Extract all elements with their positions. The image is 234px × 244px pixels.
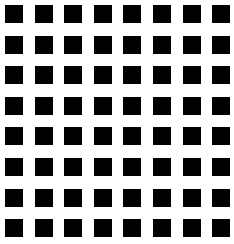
black-square xyxy=(64,97,82,115)
black-square xyxy=(35,219,53,237)
black-square xyxy=(35,5,53,23)
black-square xyxy=(94,36,112,54)
black-square xyxy=(35,97,53,115)
black-square xyxy=(123,97,141,115)
black-square xyxy=(123,36,141,54)
black-square xyxy=(183,158,201,176)
black-square xyxy=(153,127,171,145)
black-square xyxy=(94,219,112,237)
black-square xyxy=(212,36,230,54)
black-square xyxy=(35,189,53,207)
black-square xyxy=(153,66,171,84)
black-square xyxy=(35,127,53,145)
black-square xyxy=(94,189,112,207)
black-square xyxy=(94,158,112,176)
black-square xyxy=(123,158,141,176)
black-square xyxy=(153,97,171,115)
black-square xyxy=(153,189,171,207)
black-square xyxy=(123,189,141,207)
black-square xyxy=(183,127,201,145)
black-square xyxy=(94,5,112,23)
black-square xyxy=(212,219,230,237)
black-square xyxy=(123,66,141,84)
black-square xyxy=(5,5,23,23)
black-square xyxy=(183,97,201,115)
black-square xyxy=(212,189,230,207)
black-square xyxy=(35,158,53,176)
black-square xyxy=(153,158,171,176)
black-square xyxy=(94,97,112,115)
black-square xyxy=(212,127,230,145)
black-square xyxy=(123,219,141,237)
black-square xyxy=(5,219,23,237)
black-square xyxy=(94,127,112,145)
black-square xyxy=(183,36,201,54)
black-square xyxy=(212,158,230,176)
black-square xyxy=(5,158,23,176)
black-square xyxy=(183,219,201,237)
black-square xyxy=(64,5,82,23)
black-square xyxy=(5,97,23,115)
black-square xyxy=(64,66,82,84)
black-square xyxy=(153,36,171,54)
black-square xyxy=(123,5,141,23)
black-square xyxy=(64,219,82,237)
square-grid-pattern xyxy=(0,0,234,244)
black-square xyxy=(123,127,141,145)
black-square xyxy=(5,36,23,54)
black-square xyxy=(64,158,82,176)
black-square xyxy=(64,127,82,145)
black-square xyxy=(183,189,201,207)
black-square xyxy=(153,5,171,23)
black-square xyxy=(212,5,230,23)
black-square xyxy=(5,66,23,84)
black-square xyxy=(5,189,23,207)
black-square xyxy=(153,219,171,237)
black-square xyxy=(183,5,201,23)
black-square xyxy=(64,189,82,207)
black-square xyxy=(212,66,230,84)
black-square xyxy=(5,127,23,145)
black-square xyxy=(64,36,82,54)
black-square xyxy=(212,97,230,115)
black-square xyxy=(35,36,53,54)
black-square xyxy=(35,66,53,84)
black-square xyxy=(183,66,201,84)
black-square xyxy=(94,66,112,84)
